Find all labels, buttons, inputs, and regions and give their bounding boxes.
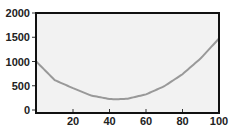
y-tick-label: 1000: [6, 56, 30, 68]
y-tick-label: 1500: [6, 31, 30, 43]
y-tick-label: 500: [12, 80, 30, 92]
y-tick-label: 0: [24, 104, 30, 116]
x-tick-label: 40: [103, 115, 115, 127]
x-tick-label: 100: [210, 115, 228, 127]
x-tick-label: 20: [67, 115, 79, 127]
line-chart: 0500100015002000 20406080100: [0, 0, 239, 132]
x-tick-label: 80: [176, 115, 188, 127]
y-tick-label: 2000: [6, 7, 30, 19]
x-tick-label: 60: [140, 115, 152, 127]
y-axis: 0500100015002000: [6, 7, 36, 116]
